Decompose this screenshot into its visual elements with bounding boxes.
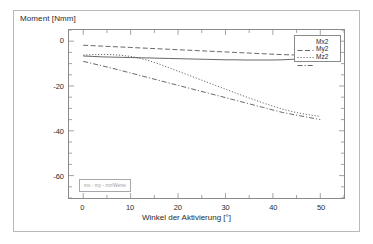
series-line-flat-lower [83,55,320,60]
legend-line-sample [297,54,314,59]
legend-item: Mz2 [297,53,338,61]
chart-legend: Mx2My2Mz2 [294,35,341,62]
legend-label: Mz2 [316,53,328,61]
legend-item: Mx2 [297,38,338,46]
series-line-My2 [83,54,320,116]
x-tick-label: 50 [309,203,333,212]
plot-annotation-box: mx - my - mz/Werte [79,179,131,192]
legend-label: Mx2 [316,38,328,46]
y-tick-label: -60 [40,172,64,181]
legend-line-sample [297,39,314,44]
legend-label: My2 [316,45,328,53]
y-axis-title: Moment [Nmm] [20,14,76,23]
x-axis-title: Winkel der Aktivierung [°] [0,213,373,222]
plot-annotation-text: mx - my - mz/Werte [84,183,126,188]
x-tick-label: 0 [70,203,94,212]
x-tick-label: 40 [261,203,285,212]
legend-line-sample [297,46,314,51]
x-tick-label: 30 [214,203,238,212]
figure-canvas: Moment [Nmm] 0-20-40-60 01020304050 Wink… [0,0,373,244]
y-tick-label: -40 [40,127,64,136]
series-line-Mz2 [83,61,320,119]
x-tick-label: 20 [166,203,190,212]
y-tick-label: -20 [40,81,64,90]
y-tick-label: 0 [40,36,64,45]
x-tick-label: 10 [118,203,142,212]
series-line-Mx2 [83,45,320,55]
